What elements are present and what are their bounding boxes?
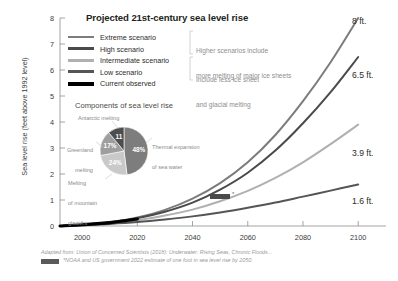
pie-percent-antarctic-melting: 11 bbox=[112, 133, 126, 140]
pie-label-greenland-line1: Greenland bbox=[63, 147, 93, 154]
source-attribution: Adapted from: Union of Concerned Scienti… bbox=[41, 249, 272, 255]
pie-label-glaciers-line3: glaciers bbox=[68, 220, 97, 227]
pie-label-thermal: Thermal expansion of sea water bbox=[152, 131, 200, 184]
footnote-swatch bbox=[41, 259, 59, 264]
end-label-extreme-scenario: 8 ft. bbox=[352, 16, 366, 26]
pie-leader-line bbox=[112, 121, 118, 128]
end-label-high-scenario: 6.5 ft. bbox=[352, 70, 374, 80]
end-label-intermediate-scenario: 3.9 ft. bbox=[352, 148, 374, 158]
sea-level-rise-chart: Projected 21st-century sea level rise Se… bbox=[0, 0, 398, 281]
end-label-low-scenario: 1.6 ft. bbox=[352, 196, 374, 206]
pie-label-glaciers-line1: Melting bbox=[68, 180, 97, 187]
pie-percent-thermal-expansion-of-sea-water: 48% bbox=[132, 146, 146, 153]
pie-label-antarctic: Antarctic melting bbox=[78, 115, 119, 122]
footnote-text: *NOAA and US government 2022 estimate of… bbox=[63, 257, 253, 263]
pie-percent-melting-of-mountain-glaciers: 24% bbox=[108, 159, 122, 166]
pie-label-glaciers: Melting of mountain glaciers bbox=[68, 167, 97, 240]
pie-leader-line bbox=[105, 174, 112, 179]
pie-percent-greenland-melting: 17% bbox=[103, 142, 117, 149]
pie-label-thermal-line2: of sea water bbox=[152, 164, 200, 171]
pie-label-thermal-line1: Thermal expansion bbox=[152, 144, 200, 151]
pie-label-glaciers-line2: of mountain bbox=[68, 200, 97, 207]
noaa-estimate-marker bbox=[210, 194, 230, 199]
noaa-marker-asterisk: * bbox=[232, 191, 234, 197]
